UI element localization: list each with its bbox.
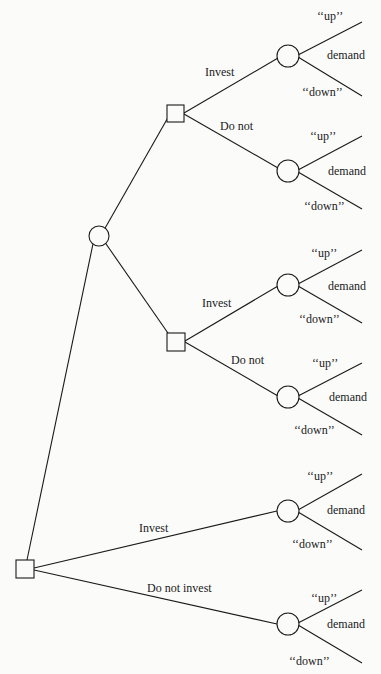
label-invest-upper: Invest (205, 66, 234, 78)
outcome-demand: demand (328, 165, 366, 177)
chance-node-first (89, 226, 109, 246)
outcome-down: ‘‘down’’ (294, 424, 335, 436)
label-donot-lower: Do not (231, 354, 264, 366)
outcome-demand: demand (327, 504, 365, 516)
decision-tree (0, 0, 381, 674)
chance-node-4 (277, 386, 299, 408)
outcome-up: ‘‘up’’ (307, 470, 333, 482)
label-invest-root: Invest (139, 522, 168, 534)
chance-node-3 (277, 274, 299, 296)
outcome-up: ‘‘up’’ (310, 130, 336, 142)
outcome-demand: demand (328, 280, 366, 292)
outcome-up: ‘‘up’’ (311, 247, 337, 259)
outcome-demand: demand (329, 391, 367, 403)
outcome-down: ‘‘down’’ (302, 86, 343, 98)
decision-node-root (16, 560, 34, 578)
outcome-down: ‘‘down’’ (299, 313, 340, 325)
chance-node-1 (277, 45, 299, 67)
outcome-up: ‘‘up’’ (312, 357, 338, 369)
chance-node-2 (277, 160, 299, 182)
outcome-down: ‘‘down’’ (304, 200, 345, 212)
label-donot-upper: Do not (220, 120, 253, 132)
outcome-down: ‘‘down’’ (289, 655, 330, 667)
decision-node-upper (167, 105, 184, 122)
chance-node-5 (277, 500, 299, 522)
label-invest-lower: Invest (202, 297, 231, 309)
decision-node-lower (167, 333, 185, 351)
label-do-not-invest-root: Do not invest (147, 582, 212, 594)
outcome-demand: demand (327, 618, 365, 630)
outcome-down: ‘‘down’’ (292, 538, 333, 550)
chance-node-6 (277, 613, 299, 635)
outcome-up: ‘‘up’’ (317, 10, 343, 22)
outcome-up: ‘‘up’’ (311, 592, 337, 604)
outcome-demand: demand (327, 49, 365, 61)
